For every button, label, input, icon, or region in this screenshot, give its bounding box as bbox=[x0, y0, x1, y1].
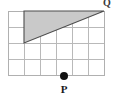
point-p-label: P bbox=[61, 83, 68, 95]
point-p-dot bbox=[60, 72, 68, 80]
corner-label: Q bbox=[103, 0, 111, 8]
point-p-group: P bbox=[60, 72, 68, 95]
figure-root: P Q bbox=[0, 0, 120, 101]
geometry-figure: P Q bbox=[0, 0, 120, 101]
